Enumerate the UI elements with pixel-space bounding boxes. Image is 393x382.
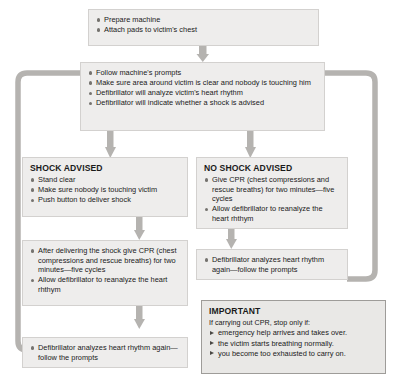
- arrow-shock-advised-to-after-shock: [134, 216, 145, 240]
- shock-advised-heading: SHOCK ADVISED: [30, 163, 180, 174]
- reanalyze-right-list: Defibrillator analyzes heart rhythm agai…: [204, 255, 340, 274]
- list-item: the victim starts breathing normally.: [209, 339, 378, 349]
- follow-prompts-list: Follow machine's prompts Make sure area …: [88, 68, 317, 108]
- list-item: Make sure nobody is touching victim: [30, 185, 180, 195]
- follow-prompts-box: Follow machine's prompts Make sure area …: [80, 62, 325, 131]
- list-item: Allow defibrillator to reanalyze the hea…: [30, 275, 180, 294]
- important-note-box: IMPORTANT If carrying out CPR, stop only…: [201, 300, 386, 374]
- list-item: Prepare machine: [96, 15, 311, 25]
- list-item: After delivering the shock give CPR (che…: [30, 246, 180, 275]
- list-item: Make sure area around victim is clear an…: [88, 78, 317, 88]
- arrow-prompts-to-no-shock-advised: [245, 130, 256, 158]
- list-item: Defibrillator analyzes heart rhythm agai…: [204, 255, 340, 274]
- prepare-machine-list: Prepare machine Attach pads to victim's …: [96, 15, 311, 35]
- after-shock-cpr-list: After delivering the shock give CPR (che…: [30, 246, 180, 294]
- after-shock-cpr-box: After delivering the shock give CPR (che…: [22, 240, 188, 306]
- no-shock-advised-list: Give CPR (chest compressions and rescue …: [204, 175, 340, 223]
- list-item: Defibrillator will analyze victim's hear…: [88, 88, 317, 98]
- important-heading: IMPORTANT: [209, 306, 378, 317]
- arrow-prompts-to-shock-advised: [105, 130, 116, 158]
- reanalyze-left-list: Defibrillator analyzes heart rhythm agai…: [30, 343, 180, 362]
- list-item: Stand clear: [30, 175, 180, 185]
- arrow-after-shock-to-reanalyze-left: [134, 305, 145, 329]
- flowchart-canvas: Prepare machine Attach pads to victim's …: [0, 0, 393, 382]
- list-item: Defibrillator analyzes heart rhythm agai…: [30, 343, 180, 362]
- shock-advised-list: Stand clear Make sure nobody is touching…: [30, 175, 180, 205]
- arrow-prepare-to-prompts: [197, 45, 210, 62]
- important-subtitle: If carrying out CPR, stop only if:: [209, 318, 378, 327]
- list-item: Follow machine's prompts: [88, 68, 317, 78]
- list-item: emergency help arrives and takes over.: [209, 328, 378, 338]
- shock-advised-box: SHOCK ADVISED Stand clear Make sure nobo…: [22, 157, 188, 217]
- list-item: Defibrillator will indicate whether a sh…: [88, 98, 317, 108]
- no-shock-advised-heading: NO SHOCK ADVISED: [204, 163, 340, 174]
- important-list: emergency help arrives and takes over. t…: [209, 328, 378, 358]
- no-shock-advised-box: NO SHOCK ADVISED Give CPR (chest compres…: [196, 157, 348, 229]
- list-item: Push button to deliver shock: [30, 195, 180, 205]
- list-item: you become too exhausted to carry on.: [209, 349, 378, 359]
- list-item: Attach pads to victim's chest: [96, 25, 311, 35]
- arrow-no-shock-to-reanalyze-right: [226, 228, 237, 249]
- reanalyze-right-box: Defibrillator analyzes heart rhythm agai…: [196, 249, 348, 280]
- reanalyze-left-box: Defibrillator analyzes heart rhythm agai…: [22, 337, 188, 368]
- list-item: Give CPR (chest compressions and rescue …: [204, 175, 340, 204]
- prepare-machine-box: Prepare machine Attach pads to victim's …: [88, 9, 319, 46]
- list-item: Allow defibrillator to reanalyze the hea…: [204, 204, 340, 223]
